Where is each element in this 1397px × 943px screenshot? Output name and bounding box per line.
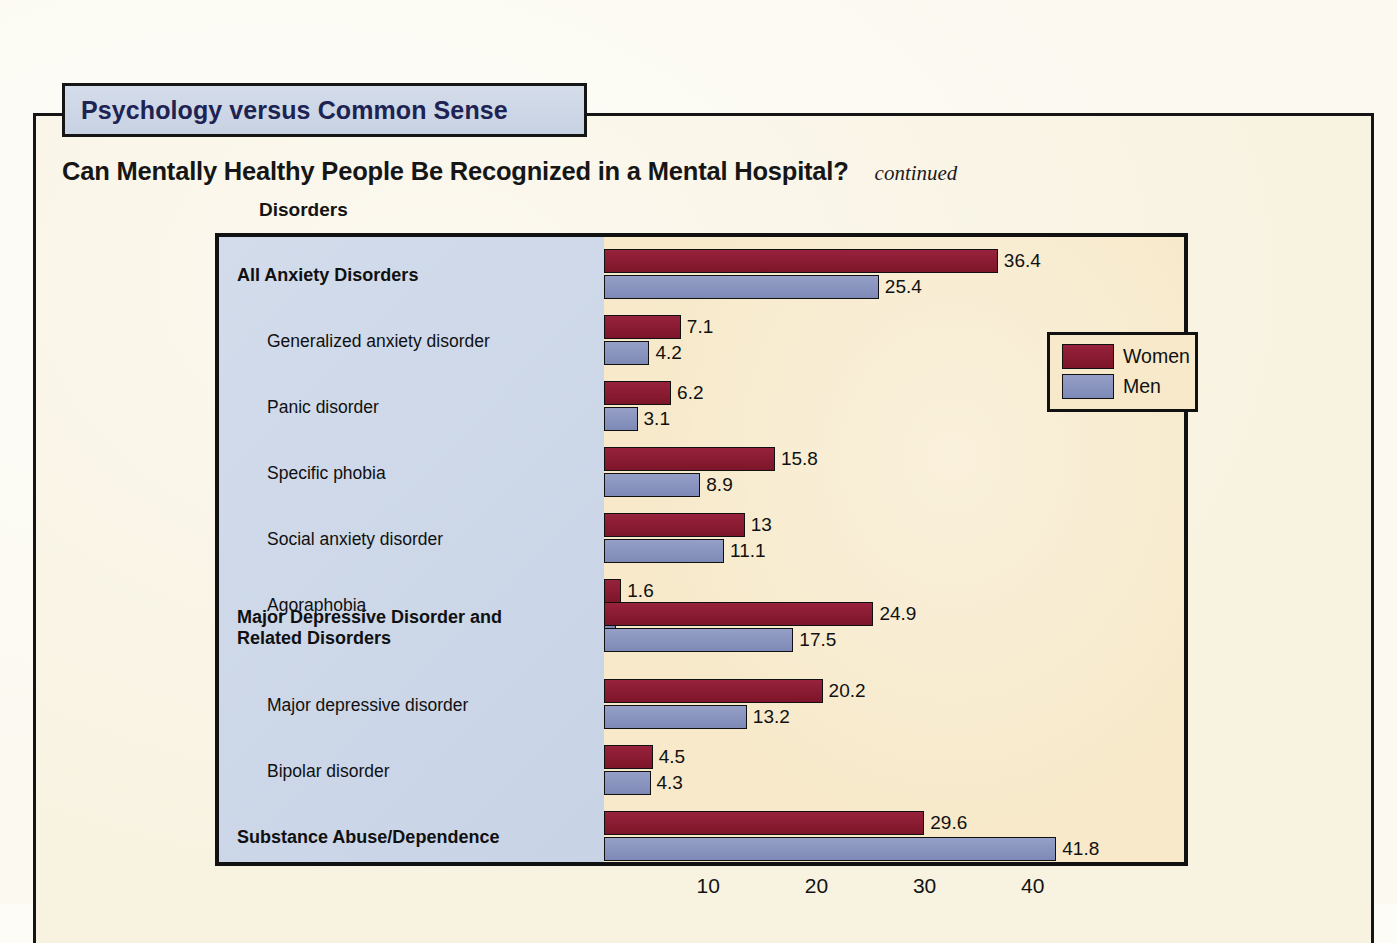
bar-value-women: 13 xyxy=(751,513,772,537)
chart-row-label-text: Substance Abuse/Dependence xyxy=(237,827,499,848)
bar-value-women: 4.5 xyxy=(659,745,685,769)
legend-label-women: Women xyxy=(1123,345,1190,368)
bar-value-men: 11.1 xyxy=(730,539,766,563)
bar-men xyxy=(604,539,724,563)
bar-men xyxy=(604,771,651,795)
chart-row-label: Major depressive disorder xyxy=(219,677,604,733)
chart-row-label-text: Generalized anxiety disorder xyxy=(267,331,490,352)
bar-women xyxy=(604,249,998,273)
chart-row-bars: 36.425.4 xyxy=(604,247,1184,303)
chart-row-label-text: Panic disorder xyxy=(267,397,379,418)
bar-men xyxy=(604,705,747,729)
bar-value-women: 29.6 xyxy=(930,811,967,835)
feature-tab-title: Psychology versus Common Sense xyxy=(65,96,508,125)
bar-value-women: 24.9 xyxy=(879,602,916,626)
chart-row: Specific phobia15.88.9 xyxy=(219,445,1184,501)
bar-value-women: 7.1 xyxy=(687,315,713,339)
bar-women xyxy=(604,679,823,703)
chart-row-bars: 4.54.3 xyxy=(604,743,1184,799)
bar-women xyxy=(604,315,681,339)
bar-men xyxy=(604,473,700,497)
chart-row: Major depressive disorder20.213.2 xyxy=(219,677,1184,733)
bar-women xyxy=(604,381,671,405)
bar-men xyxy=(604,341,649,365)
bar-value-women: 6.2 xyxy=(677,381,703,405)
x-tick-label: 30 xyxy=(913,874,936,898)
bar-women xyxy=(604,745,653,769)
column-header-disorders: Disorders xyxy=(259,199,348,221)
chart-row-label: Bipolar disorder xyxy=(219,743,604,799)
feature-title-row: Can Mentally Healthy People Be Recognize… xyxy=(62,157,957,186)
bar-women xyxy=(604,447,775,471)
chart-row: Bipolar disorder4.54.3 xyxy=(219,743,1184,799)
chart-row-label-text: All Anxiety Disorders xyxy=(237,265,418,286)
page-title: Can Mentally Healthy People Be Recognize… xyxy=(62,157,849,186)
bar-men xyxy=(604,628,793,652)
bar-value-men: 4.3 xyxy=(657,771,683,795)
bar-value-men: 13.2 xyxy=(753,705,790,729)
bar-value-women: 36.4 xyxy=(1004,249,1041,273)
bar-value-women: 15.8 xyxy=(781,447,818,471)
chart-row-bars: 29.641.8 xyxy=(604,809,1184,865)
bar-men xyxy=(604,275,879,299)
chart-row: Generalized anxiety disorder7.14.2 xyxy=(219,313,1184,369)
bar-value-men: 8.9 xyxy=(706,473,732,497)
legend-item: Women xyxy=(1062,344,1195,369)
chart-row-bars: 20.213.2 xyxy=(604,677,1184,733)
chart-row-bars: 24.917.5 xyxy=(604,600,1184,656)
chart-row: Substance Abuse/Dependence29.641.8 xyxy=(219,809,1184,865)
bar-value-men: 17.5 xyxy=(799,628,836,652)
chart-row-label: Social anxiety disorder xyxy=(219,511,604,567)
bar-men xyxy=(604,407,638,431)
chart-row-label: Generalized anxiety disorder xyxy=(219,313,604,369)
x-tick-label: 10 xyxy=(697,874,720,898)
bar-value-men: 25.4 xyxy=(885,275,922,299)
chart-row-bars: 15.88.9 xyxy=(604,445,1184,501)
chart-row: Panic disorder6.23.1 xyxy=(219,379,1184,435)
bar-chart: All Anxiety Disorders36.425.4Generalized… xyxy=(215,233,1188,866)
chart-row-label-text: Social anxiety disorder xyxy=(267,529,443,550)
feature-tab-header: Psychology versus Common Sense xyxy=(62,83,587,137)
continued-note: continued xyxy=(875,161,958,186)
chart-legend: WomenMen xyxy=(1047,332,1198,412)
chart-row-label-text: Specific phobia xyxy=(267,463,386,484)
chart-row-label-text: Major depressive disorder xyxy=(267,695,468,716)
chart-row-label: Panic disorder xyxy=(219,379,604,435)
legend-label-men: Men xyxy=(1123,375,1161,398)
chart-row-label: Major Depressive Disorder andRelated Dis… xyxy=(219,600,604,656)
x-tick-label: 20 xyxy=(805,874,828,898)
chart-row-label-text: Major Depressive Disorder andRelated Dis… xyxy=(237,607,502,648)
chart-row-label-text: Bipolar disorder xyxy=(267,761,390,782)
bar-value-women: 20.2 xyxy=(829,679,866,703)
bar-women xyxy=(604,513,745,537)
bar-value-men: 41.8 xyxy=(1062,837,1099,861)
legend-item: Men xyxy=(1062,374,1195,399)
chart-row-bars: 1311.1 xyxy=(604,511,1184,567)
x-axis: 10203040 xyxy=(215,868,1188,904)
chart-row: Major Depressive Disorder andRelated Dis… xyxy=(219,600,1184,656)
bar-men xyxy=(604,837,1056,861)
chart-row-label: Specific phobia xyxy=(219,445,604,501)
legend-swatch-men xyxy=(1062,374,1114,399)
bar-women xyxy=(604,602,873,626)
legend-swatch-women xyxy=(1062,344,1114,369)
chart-row: All Anxiety Disorders36.425.4 xyxy=(219,247,1184,303)
chart-row-label: Substance Abuse/Dependence xyxy=(219,809,604,865)
chart-row: Social anxiety disorder1311.1 xyxy=(219,511,1184,567)
x-tick-label: 40 xyxy=(1021,874,1044,898)
chart-row-label: All Anxiety Disorders xyxy=(219,247,604,303)
bar-value-men: 4.2 xyxy=(655,341,681,365)
bar-women xyxy=(604,811,924,835)
bar-value-men: 3.1 xyxy=(644,407,670,431)
